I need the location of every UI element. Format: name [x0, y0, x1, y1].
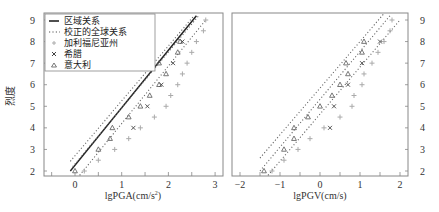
right-x-axis: −2−1012 [235, 172, 403, 190]
y-tick-label: 6 [30, 79, 35, 90]
svg-text:加利福尼亚州: 加利福尼亚州 [64, 37, 118, 48]
x-tick-label: 1 [358, 179, 363, 190]
california-plus-marker [96, 158, 101, 163]
chart-canvas: 23456789 0123 lgPGA(cm/s2) 烈度 区域关系 校正的全球… [0, 0, 439, 212]
y-tick-label: 3 [30, 144, 35, 155]
greece-x-marker [346, 83, 350, 87]
greece-x-marker [145, 104, 149, 108]
y-tick-label: 5 [420, 101, 425, 112]
svg-text:希腊: 希腊 [64, 48, 82, 59]
italy-triangle-marker [292, 136, 297, 140]
california-plus-marker [175, 82, 180, 87]
y-tick-label: 2 [420, 166, 425, 177]
california-plus-marker [322, 125, 327, 130]
x-tick-label: 0 [318, 179, 323, 190]
greece-x-marker [328, 126, 332, 130]
italy-triangle-marker [147, 93, 152, 97]
x-tick-label: −1 [275, 179, 286, 190]
italy-triangle-marker [330, 93, 335, 97]
greece-x-marker [171, 61, 175, 65]
italy-triangle-marker [164, 71, 169, 75]
x-tick-label: 2 [398, 179, 403, 190]
california-plus-marker [338, 115, 343, 120]
y-tick-label: 9 [420, 15, 425, 26]
california-plus-marker [164, 104, 169, 109]
y-tick-label: 8 [420, 36, 425, 47]
right-panel: 23456789 −2−1012 lgPGV(cm/s) [232, 13, 425, 202]
california-plus-marker [296, 147, 301, 152]
california-plus-marker [376, 50, 381, 55]
x-tick-label: 2 [166, 179, 171, 190]
italy-triangle-marker [282, 147, 287, 151]
california-plus-marker [282, 158, 287, 163]
california-plus-marker [185, 61, 190, 66]
y-tick-label: 8 [30, 36, 35, 47]
california-plus-marker [308, 136, 313, 141]
california-plus-marker [352, 93, 357, 98]
california-plus-marker [112, 147, 117, 152]
california-plus-marker [350, 104, 355, 109]
california-plus-marker [180, 71, 185, 76]
california-plus-marker [189, 50, 194, 55]
italy-triangle-marker [126, 114, 131, 118]
california-plus-marker [203, 18, 208, 23]
italy-triangle-marker [110, 125, 115, 129]
california-plus-marker [370, 61, 375, 66]
greece-x-marker [131, 126, 135, 130]
italy-triangle-marker [96, 147, 101, 151]
y-tick-label: 6 [420, 79, 425, 90]
california-plus-marker [82, 169, 87, 174]
y-tick-label: 9 [30, 15, 35, 26]
italy-triangle-marker [362, 39, 367, 43]
italy-triangle-marker [262, 168, 267, 172]
y-tick-label: 7 [30, 58, 35, 69]
y-tick-label: 4 [30, 122, 35, 133]
svg-text:校正的全球关系: 校正的全球关系 [64, 26, 127, 37]
italy-triangle-marker [292, 125, 297, 129]
italy-triangle-marker [318, 104, 323, 108]
right-plot-area [260, 14, 400, 176]
italy-triangle-marker [138, 104, 143, 108]
x-tick-label: 0 [73, 179, 78, 190]
legend: 区域关系 校正的全球关系 加利福尼亚州 希腊 意大利 [45, 14, 155, 71]
greece-x-marker [332, 104, 336, 108]
left-y-axis-label: 烈度 [4, 86, 16, 106]
left-x-axis-label: lgPGA(cm/s2) [105, 190, 161, 202]
california-plus-marker [194, 39, 199, 44]
svg-text:意大利: 意大利 [64, 59, 91, 70]
california-plus-marker [126, 136, 131, 141]
california-plus-marker [138, 125, 143, 130]
y-tick-label: 5 [30, 101, 35, 112]
svg-text:区域关系: 区域关系 [64, 15, 100, 26]
california-plus-marker [360, 82, 365, 87]
x-tick-label: −2 [235, 179, 246, 190]
california-plus-marker [362, 71, 367, 76]
italy-triangle-marker [344, 61, 349, 65]
y-tick-label: 2 [30, 166, 35, 177]
right-plot-frame [232, 13, 408, 176]
california-plus-marker [390, 18, 395, 23]
x-tick-label: 1 [119, 179, 124, 190]
italy-triangle-marker [346, 71, 351, 75]
italy-triangle-marker [306, 114, 311, 118]
y-tick-label: 4 [420, 122, 425, 133]
left-x-axis: 0123 [52, 172, 218, 190]
corrected-global-line [260, 14, 384, 159]
y-tick-label: 7 [420, 58, 425, 69]
x-tick-label: 3 [213, 179, 218, 190]
california-plus-marker [201, 28, 206, 33]
right-x-axis-label: lgPGV(cm/s) [293, 190, 346, 202]
corrected-global-line [260, 16, 390, 171]
california-plus-marker [168, 93, 173, 98]
italy-triangle-marker [338, 82, 343, 86]
y-tick-label: 3 [420, 144, 425, 155]
california-plus-marker [152, 115, 157, 120]
